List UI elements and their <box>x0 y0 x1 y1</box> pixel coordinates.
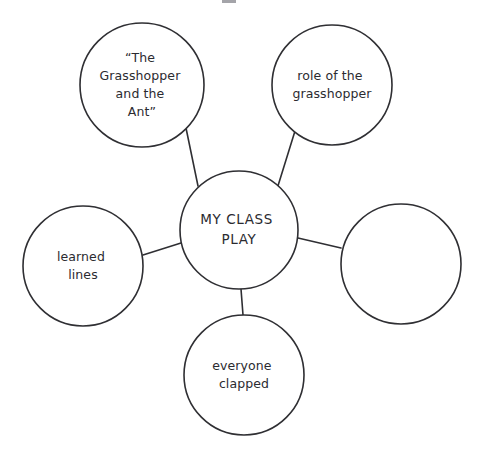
connector-to-role-of-the-grasshopper <box>277 131 295 189</box>
graphic-organizer-canvas: “The Grasshopper and the Ant” role of th… <box>0 0 483 458</box>
cluster-web-diagram: “The Grasshopper and the Ant” role of th… <box>0 0 483 458</box>
node-blank-node[interactable] <box>341 204 461 324</box>
node-grasshopper-and-the-ant[interactable]: “The Grasshopper and the Ant” <box>80 23 204 147</box>
node-learned-lines[interactable]: learned lines <box>23 206 143 326</box>
node-circle-my-class-play[interactable] <box>180 171 298 289</box>
connector-to-everyone-clapped <box>241 289 243 315</box>
connector-to-learned-lines <box>143 243 181 255</box>
connector-to-grasshopper-and-the-ant <box>186 128 198 186</box>
node-my-class-play[interactable]: MY CLASS PLAY <box>180 171 298 289</box>
node-everyone-clapped[interactable]: everyone clapped <box>184 315 304 435</box>
node-circle-blank-node[interactable] <box>341 204 461 324</box>
node-role-of-the-grasshopper[interactable]: role of the grasshopper <box>272 25 392 145</box>
connector-to-blank-node <box>298 238 341 248</box>
